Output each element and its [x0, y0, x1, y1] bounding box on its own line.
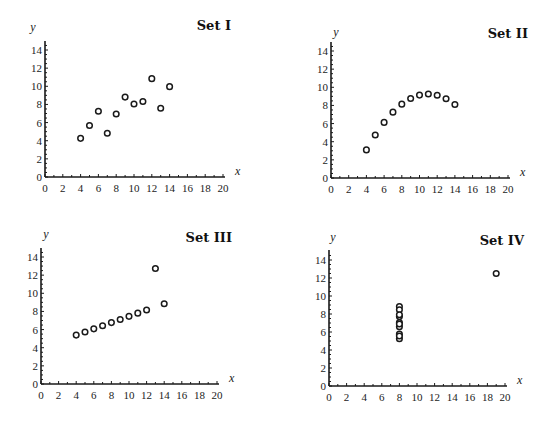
y-tick-label: 6 — [323, 118, 329, 130]
data-point-marker — [117, 317, 123, 323]
panel-title: Set I — [197, 18, 231, 33]
x-tick-label: 12 — [141, 389, 152, 401]
x-axis-label: x — [228, 371, 235, 385]
x-tick-label: 2 — [346, 183, 352, 195]
data-point-marker — [158, 105, 164, 111]
panel-set-1: 0246810121416182002468101214xySet I — [29, 18, 241, 194]
y-axis-label: y — [42, 227, 49, 241]
y-tick-label: 0 — [321, 380, 327, 392]
x-tick-label: 6 — [96, 182, 102, 194]
y-axis-label: y — [332, 25, 339, 39]
y-tick-label: 14 — [31, 44, 43, 56]
x-tick-label: 14 — [449, 183, 461, 195]
x-tick-label: 10 — [124, 389, 136, 401]
x-tick-label: 16 — [176, 389, 188, 401]
x-tick-label: 12 — [432, 183, 443, 195]
data-point-marker — [397, 333, 403, 339]
x-tick-label: 14 — [159, 389, 171, 401]
data-point-marker — [399, 101, 405, 107]
x-tick-label: 14 — [447, 391, 459, 403]
data-point-marker — [381, 120, 387, 126]
y-tick-label: 10 — [317, 81, 329, 93]
y-tick-label: 2 — [33, 360, 39, 372]
y-tick-label: 6 — [37, 117, 43, 129]
y-tick-label: 8 — [37, 98, 43, 110]
data-point-marker — [122, 94, 128, 100]
x-tick-label: 20 — [503, 183, 515, 195]
y-tick-label: 12 — [31, 62, 42, 74]
data-point-marker — [397, 312, 403, 318]
data-point-marker — [153, 266, 159, 272]
data-point-marker — [452, 102, 458, 108]
x-tick-label: 8 — [113, 182, 119, 194]
y-axis-label: y — [329, 230, 336, 244]
panel-set-2: 0246810121416182002468101214xySet II — [317, 25, 528, 195]
y-tick-label: 4 — [33, 342, 39, 354]
data-point-marker — [397, 321, 403, 327]
x-tick-label: 2 — [344, 391, 350, 403]
data-point-marker — [82, 329, 88, 335]
data-point-marker — [161, 301, 167, 307]
data-point-marker — [443, 96, 449, 102]
data-point-marker — [434, 92, 440, 98]
data-point-marker — [126, 314, 132, 320]
y-tick-label: 14 — [315, 254, 327, 266]
x-tick-label: 14 — [164, 182, 176, 194]
x-tick-label: 10 — [414, 183, 426, 195]
x-tick-label: 12 — [429, 391, 440, 403]
y-tick-label: 4 — [323, 136, 329, 148]
data-point-marker — [131, 101, 137, 107]
x-tick-label: 4 — [364, 183, 370, 195]
y-tick-label: 14 — [27, 251, 39, 263]
x-tick-label: 0 — [38, 389, 44, 401]
x-tick-label: 20 — [500, 391, 512, 403]
panel-set-4: 0246810121416182002468101214xySet IV — [315, 230, 525, 403]
x-tick-label: 16 — [464, 391, 476, 403]
y-tick-label: 0 — [323, 172, 329, 184]
data-point-marker — [417, 92, 423, 98]
x-tick-label: 0 — [326, 391, 332, 403]
y-tick-label: 8 — [33, 305, 39, 317]
x-tick-label: 18 — [194, 389, 206, 401]
y-tick-label: 0 — [33, 378, 39, 390]
data-point-marker — [493, 271, 499, 277]
y-tick-label: 2 — [321, 362, 327, 374]
y-tick-label: 10 — [315, 290, 327, 302]
x-tick-label: 2 — [60, 182, 66, 194]
data-point-marker — [78, 136, 84, 142]
x-tick-label: 20 — [212, 389, 224, 401]
data-point-marker — [408, 96, 414, 102]
data-point-marker — [109, 320, 115, 326]
data-point-marker — [87, 123, 93, 129]
x-tick-label: 18 — [200, 182, 212, 194]
data-point-marker — [144, 307, 150, 313]
y-tick-label: 12 — [27, 269, 38, 281]
x-tick-label: 6 — [381, 183, 387, 195]
x-tick-label: 6 — [91, 389, 97, 401]
x-tick-label: 0 — [328, 183, 334, 195]
data-point-marker — [372, 132, 378, 138]
x-tick-label: 18 — [485, 183, 497, 195]
x-tick-label: 10 — [412, 391, 424, 403]
y-tick-label: 2 — [323, 154, 329, 166]
data-point-marker — [135, 310, 141, 316]
data-point-marker — [364, 147, 370, 153]
y-tick-label: 10 — [31, 80, 43, 92]
y-tick-label: 14 — [317, 45, 329, 57]
x-tick-label: 18 — [482, 391, 494, 403]
y-tick-label: 10 — [27, 287, 39, 299]
data-point-marker — [426, 91, 432, 97]
x-tick-label: 16 — [467, 183, 479, 195]
y-tick-label: 4 — [37, 135, 43, 147]
y-tick-label: 4 — [321, 344, 327, 356]
y-tick-label: 8 — [321, 308, 327, 320]
panel-set-3: 0246810121416182002468101214xySet III — [27, 227, 235, 401]
data-point-marker — [105, 130, 111, 136]
data-point-marker — [167, 84, 173, 90]
x-tick-label: 12 — [146, 182, 157, 194]
data-point-marker — [91, 326, 97, 332]
y-tick-label: 12 — [315, 272, 326, 284]
y-tick-label: 12 — [317, 63, 328, 75]
panel-title: Set III — [186, 230, 232, 245]
x-tick-label: 10 — [129, 182, 141, 194]
